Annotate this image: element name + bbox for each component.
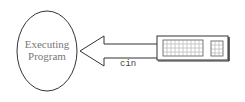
program-label-line2: Program bbox=[17, 50, 77, 62]
diagram: Executing Program cin bbox=[0, 0, 245, 102]
program-label-line1: Executing bbox=[17, 38, 77, 50]
program-label: Executing Program bbox=[17, 38, 77, 62]
arrow-label: cin bbox=[120, 59, 136, 69]
keyboard-icon bbox=[157, 36, 229, 61]
arrow-icon bbox=[80, 36, 158, 66]
